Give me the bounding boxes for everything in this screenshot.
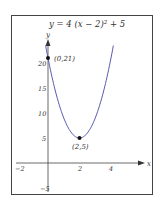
y-tick-10: 10 [38,110,46,118]
vertex-label: (2,5) [72,143,89,151]
intercept-label: (0,21) [54,55,75,63]
x-tick-4: 4 [108,165,113,173]
x-tick-2: 2 [77,165,82,173]
y-tick-5: 5 [42,135,46,143]
y-tick-15: 15 [38,85,46,93]
y-tick-20: 20 [37,60,46,68]
parabola-chart: y = 4 (x − 2)2 + 5 x y −2 2 4 5 10 15 20… [0,0,158,204]
intercept-point [46,56,50,60]
y-tick-neg5: −5 [40,185,50,193]
x-tick-neg2: −2 [15,165,25,173]
x-axis-label: x [147,160,151,168]
chart-title: y = 4 (x − 2)2 + 5 [48,19,125,29]
vertex-point [78,136,82,140]
